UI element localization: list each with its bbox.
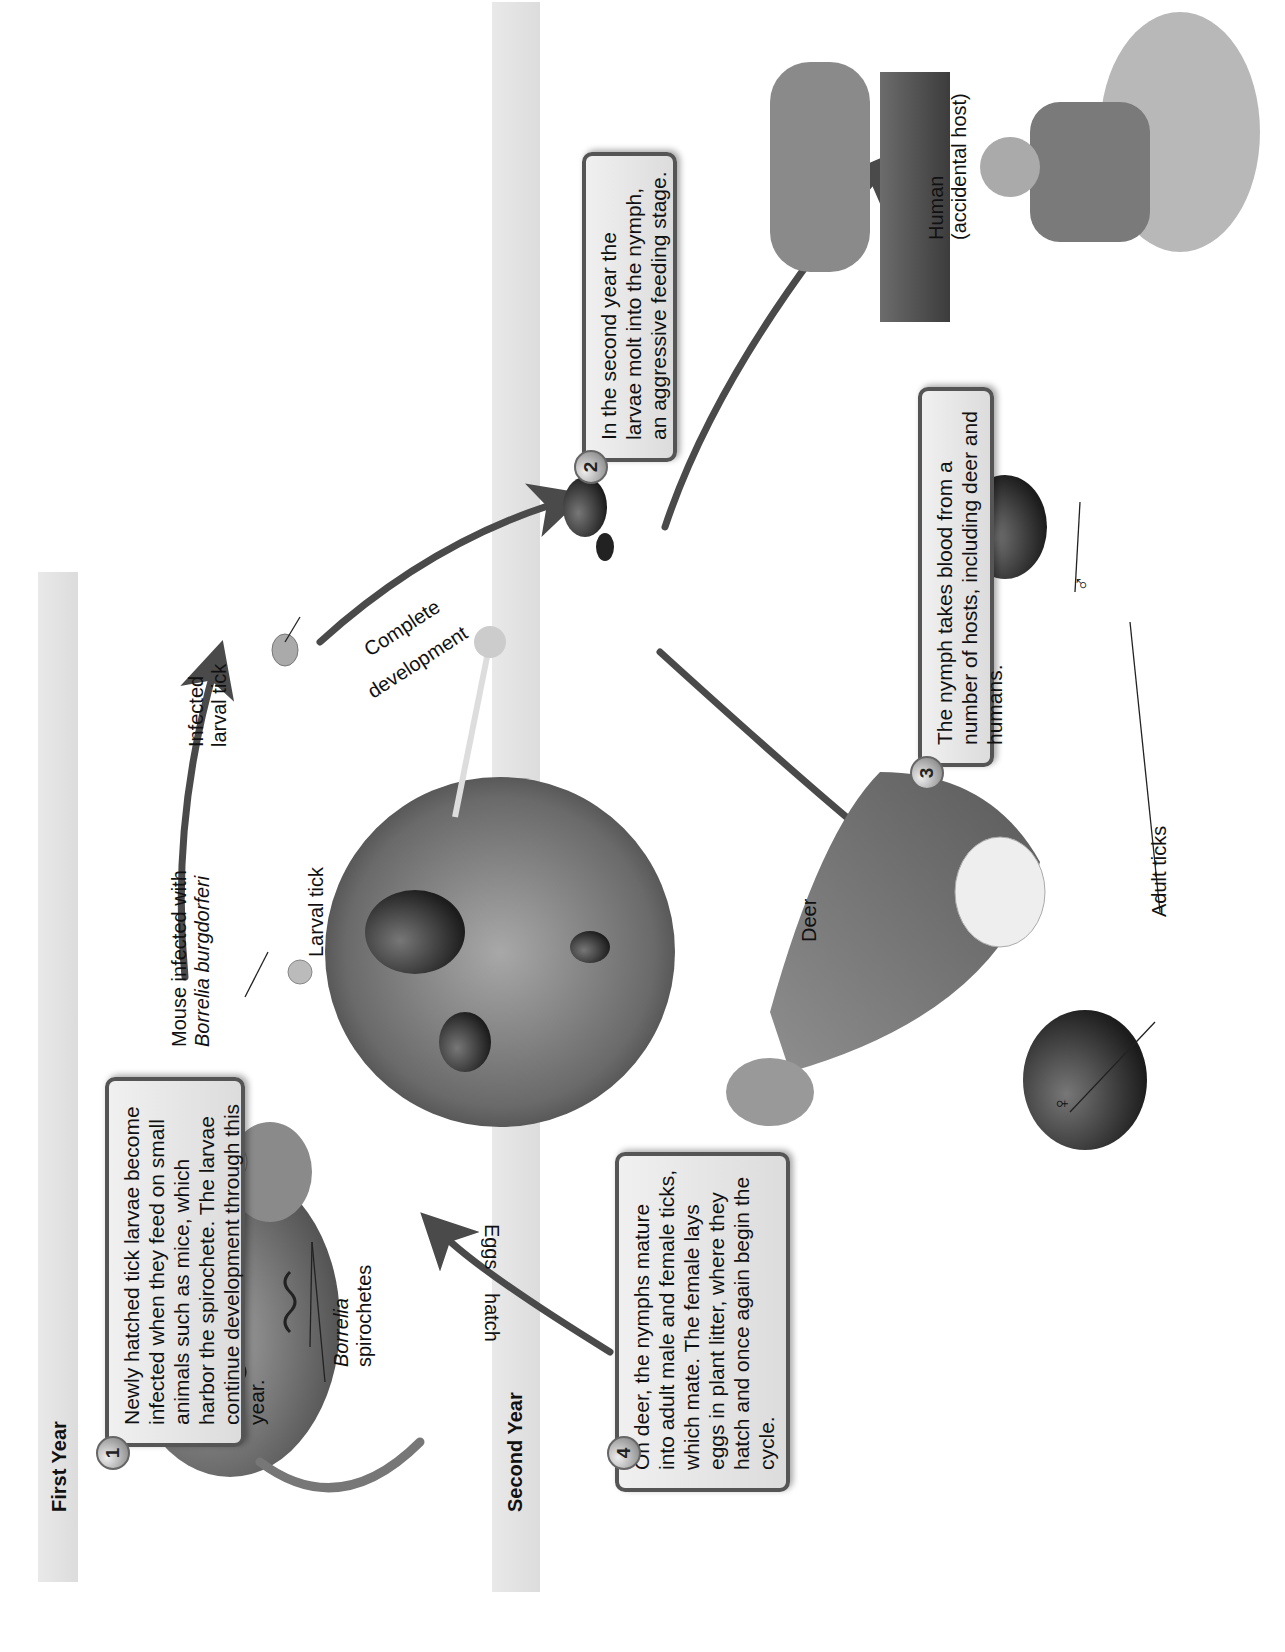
- borrelia-spirochetes-label: Borrelia spirochetes: [330, 1265, 376, 1367]
- male-symbol: ♂: [1070, 576, 1093, 593]
- deer-label: Deer: [798, 899, 821, 942]
- step-2-badge: 2: [574, 450, 608, 484]
- infected-larval-tick-label: Infected larval tick: [185, 664, 231, 747]
- deer-illustration: [726, 772, 1045, 1126]
- larval-tick-label: Larval tick: [305, 867, 328, 957]
- step-1-box: Newly hatched tick larvae become infecte…: [105, 1077, 245, 1447]
- female-symbol: ♀: [1050, 1096, 1073, 1113]
- human-tree-illustration: [770, 12, 1260, 322]
- step-4-text: On deer, the nymphs mature into adult ma…: [630, 1170, 778, 1470]
- arrow-eggs-hatch: [440, 1232, 610, 1352]
- lyme-disease-tick-life-cycle-figure: First Year Second Year: [0, 0, 1285, 1652]
- nymph-tick-illustration: [563, 477, 614, 561]
- mouse-label: Mouse infected with Borrelia burgdorferi: [168, 807, 214, 1047]
- step-4-box: On deer, the nymphs mature into adult ma…: [615, 1152, 790, 1492]
- larval-tick-illustration: [288, 960, 312, 984]
- step-1-badge: 1: [96, 1436, 130, 1470]
- eggs-hatch-label: Eggs hatch: [480, 1224, 503, 1342]
- adult-ticks-label: Adult ticks: [1148, 826, 1171, 917]
- human-label: Human (accidental host): [925, 93, 971, 240]
- step-3-box: The nymph takes blood from a number of h…: [918, 387, 994, 767]
- step-3-badge: 3: [910, 756, 944, 790]
- infected-larval-tick-illustration: [272, 634, 298, 666]
- step-2-text: In the second year the larvae molt into …: [597, 171, 670, 440]
- step-4-badge: 4: [607, 1436, 641, 1470]
- step-2-box: In the second year the larvae molt into …: [582, 152, 677, 462]
- adult-female-tick-illustration: [1023, 1010, 1147, 1150]
